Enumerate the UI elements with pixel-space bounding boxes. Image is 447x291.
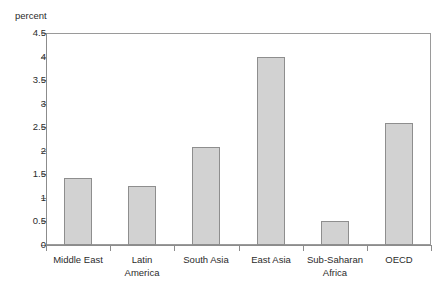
x-axis-category-label: Middle East	[46, 254, 110, 267]
x-axis-category-label: Sub-Saharan Africa	[303, 254, 367, 279]
plot-area	[46, 33, 431, 245]
bar	[64, 178, 92, 245]
y-axis-tick-label: 2.5	[18, 122, 46, 132]
x-axis-tick-mark	[110, 246, 111, 251]
y-axis-tick-label: 3	[18, 99, 46, 109]
bar	[128, 186, 156, 245]
y-axis-unit-caption: percent	[15, 10, 47, 21]
y-axis-tick-label: 4	[18, 52, 46, 62]
bar	[192, 147, 220, 245]
bar	[385, 123, 413, 245]
x-axis-category-label: OECD	[367, 254, 431, 267]
chart-screenshot: •••• •••• percent 00.511.522.533.544.5 M…	[0, 0, 447, 291]
cropped-title-remnant: •••• ••••	[62, 0, 180, 1]
y-axis-tick-label: 4.5	[18, 28, 46, 38]
x-axis-tick-mark	[46, 246, 47, 251]
x-axis-tick-mark	[431, 246, 432, 251]
y-axis-tick-label: 2	[18, 146, 46, 156]
y-axis-tick-label: 0	[18, 240, 46, 250]
y-axis-line	[46, 33, 47, 246]
x-axis-tick-mark	[239, 246, 240, 251]
bar	[321, 221, 349, 245]
x-axis-category-label: Latin America	[110, 254, 174, 279]
x-axis-tick-mark	[367, 246, 368, 251]
x-axis-category-label: South Asia	[174, 254, 238, 267]
y-axis-tick-label: 1	[18, 193, 46, 203]
y-axis-tick-label: 1.5	[18, 169, 46, 179]
y-axis-tick-label: 0.5	[18, 216, 46, 226]
y-axis-tick-label: 3.5	[18, 75, 46, 85]
x-axis-tick-mark	[174, 246, 175, 251]
x-axis-category-label: East Asia	[239, 254, 303, 267]
x-axis-tick-mark	[303, 246, 304, 251]
bar	[257, 57, 285, 245]
